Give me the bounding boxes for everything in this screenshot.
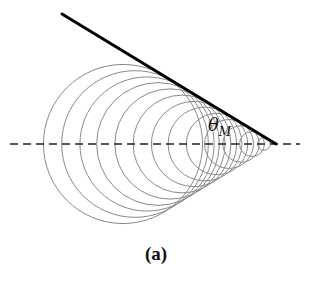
mach-angle-label: θM [208, 114, 232, 139]
figure-caption: (a) [0, 243, 312, 265]
mach-cone-line [62, 14, 276, 144]
